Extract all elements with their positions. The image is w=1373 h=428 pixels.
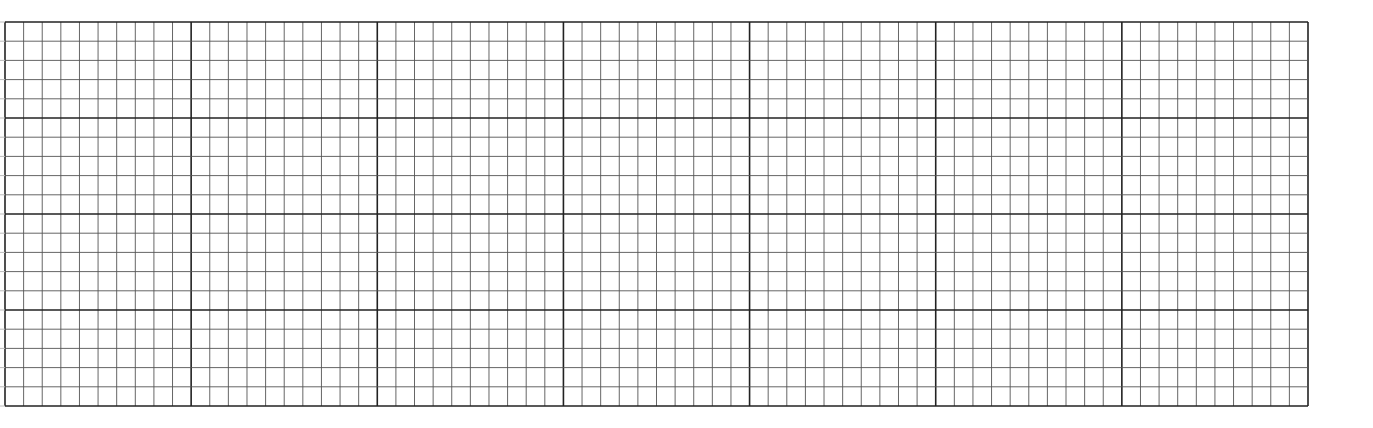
graph-paper-grid [0,0,1373,428]
